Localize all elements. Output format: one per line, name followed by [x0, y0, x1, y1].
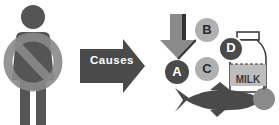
- apple-icon: [252, 86, 276, 110]
- vitamin-letter-d: D: [220, 40, 242, 55]
- vitamin-letter-a: A: [165, 64, 189, 79]
- causes-label: Causes: [86, 54, 138, 66]
- decrease-arrow-icon: [160, 12, 196, 60]
- vitamin-letter-c: C: [195, 61, 219, 76]
- person-prohibited-icon: [0, 0, 80, 125]
- vitamin-letter-b: B: [195, 22, 219, 37]
